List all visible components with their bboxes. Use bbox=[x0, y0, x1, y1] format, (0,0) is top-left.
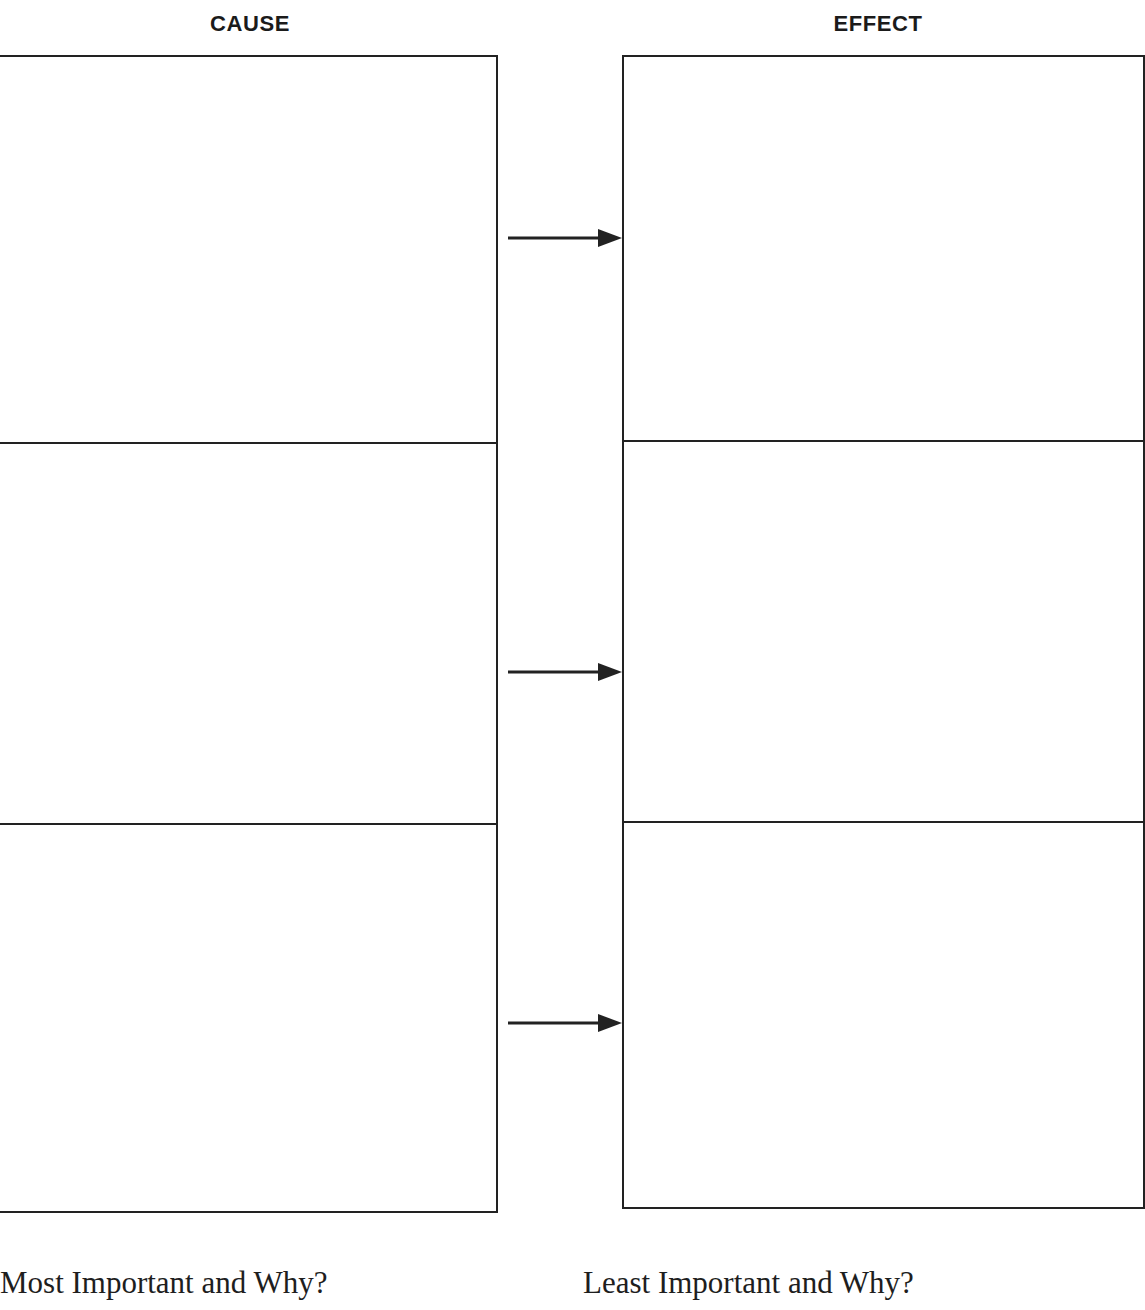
prompt-most-important: Most Important and Why? bbox=[0, 1265, 327, 1301]
arrow-right-icon-1 bbox=[506, 225, 624, 251]
cause-box-2[interactable] bbox=[0, 444, 496, 825]
effect-box-1[interactable] bbox=[624, 57, 1143, 442]
prompt-least-important: Least Important and Why? bbox=[583, 1265, 914, 1301]
column-header-effect: EFFECT bbox=[778, 11, 978, 37]
cause-box-1[interactable] bbox=[0, 57, 496, 444]
arrow-right-icon-3 bbox=[506, 1010, 624, 1036]
arrow-right-icon-2 bbox=[506, 659, 624, 685]
cause-column-boxes bbox=[0, 55, 498, 1213]
column-header-cause: CAUSE bbox=[150, 11, 350, 37]
cause-box-3[interactable] bbox=[0, 825, 496, 1211]
effect-column-boxes bbox=[622, 55, 1145, 1209]
effect-box-2[interactable] bbox=[624, 442, 1143, 823]
effect-box-3[interactable] bbox=[624, 823, 1143, 1207]
